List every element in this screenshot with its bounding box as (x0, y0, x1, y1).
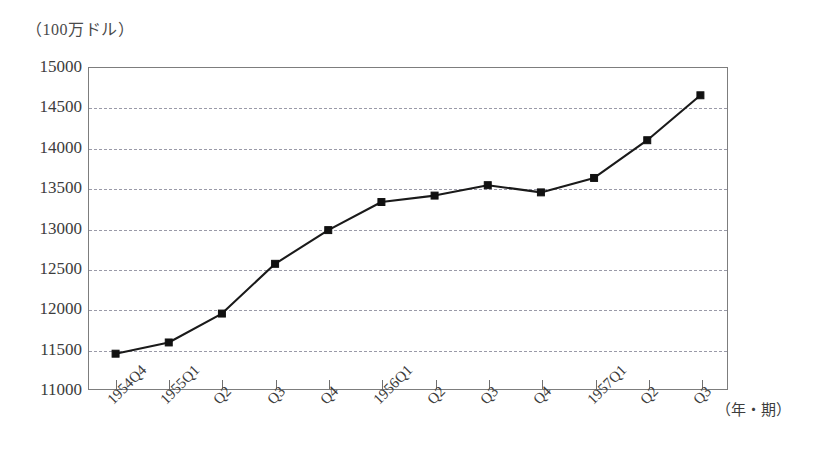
y-tick-label: 14000 (12, 138, 82, 158)
y-tick-label: 13000 (12, 219, 82, 239)
data-point-marker (272, 260, 279, 267)
data-point-marker (484, 182, 491, 189)
plot-area (88, 67, 728, 390)
series-line (116, 95, 701, 353)
data-point-marker (378, 199, 385, 206)
y-axis-unit-label: （100万ドル） (26, 16, 134, 40)
y-tick-label: 13500 (12, 178, 82, 198)
y-tick-label: 15000 (12, 57, 82, 77)
data-point-marker (537, 189, 544, 196)
data-point-marker (431, 192, 438, 199)
data-series-svg (89, 68, 727, 389)
y-tick-label: 12000 (12, 299, 82, 319)
x-axis-caption: （年・期） (716, 398, 817, 419)
data-point-marker (112, 350, 119, 357)
series-markers (112, 92, 704, 357)
data-point-marker (697, 92, 704, 99)
y-tick-label: 12500 (12, 259, 82, 279)
data-point-marker (218, 310, 225, 317)
chart-figure: （100万ドル） 1500014500140001350013000125001… (0, 0, 817, 465)
data-point-marker (165, 339, 172, 346)
y-tick-label: 14500 (12, 97, 82, 117)
y-tick-label: 11000 (12, 380, 82, 400)
data-point-marker (644, 137, 651, 144)
data-point-marker (591, 174, 598, 181)
data-point-marker (325, 227, 332, 234)
y-tick-label: 11500 (12, 340, 82, 360)
